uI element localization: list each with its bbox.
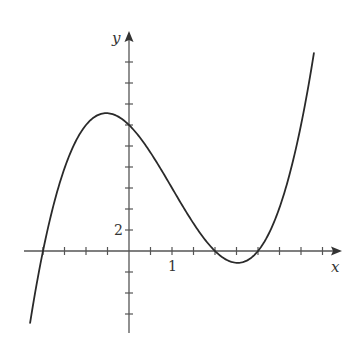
cubic-function-graph: y x 2 1 xyxy=(0,0,357,352)
x-tick-label-1: 1 xyxy=(168,258,177,274)
x-axis-label: x xyxy=(331,258,340,276)
y-tick-label-2: 2 xyxy=(114,222,123,238)
function-curve xyxy=(30,53,314,323)
y-axis-label: y xyxy=(111,29,121,47)
